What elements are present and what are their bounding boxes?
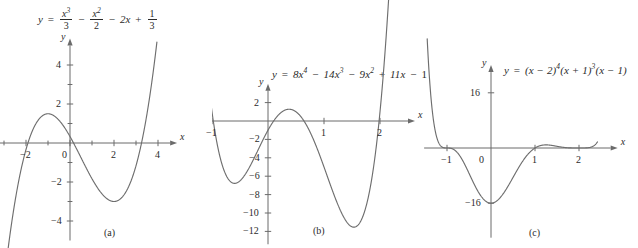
caption-c: (c) (529, 228, 540, 238)
plot-b-ytick-label: −4 (249, 153, 260, 163)
panel-c: y = (x − 2)4(x + 1)3(x − 1) (c) xy−10121… (424, 0, 638, 248)
panel-b: y = 8x4 − 14x3 − 9x2 + 11x − 1 (b) xy−11… (212, 0, 424, 248)
plot-b-x-axis-label: x (418, 110, 422, 120)
plot-b-y-axis-label: y (259, 77, 263, 87)
plot-c-xtick-label: −1 (441, 155, 452, 165)
plot-c-ytick-label: 16 (470, 88, 480, 98)
plot-c-y-axis-label: y (482, 58, 486, 68)
plot-b-xtick-label: −1 (206, 128, 217, 138)
plot-a-xtick-label: 0 (62, 150, 67, 160)
caption-b: (b) (313, 226, 325, 236)
plot-c-xtick-label: 2 (576, 155, 581, 165)
plot-c-x-axis-label: x (621, 137, 625, 147)
polynomial-graphs-figure: y = x3 3 − x2 2 − 2x + 1 3 (a) xy−4−2 (0, 0, 638, 248)
caption-a: (a) (104, 228, 115, 238)
plot-a-ytick-label: −4 (51, 216, 62, 226)
plot-c-xtick-label: 0 (479, 155, 484, 165)
plot-a-x-axis-label: x (180, 132, 184, 142)
plot-b-ytick-label: −10 (243, 208, 259, 218)
plot-a-ytick-label: −2 (51, 177, 62, 187)
plot-a-y-axis-label: y (61, 32, 65, 42)
plot-a-xtick-label: 4 (155, 150, 160, 160)
plot-b-ytick-label: −6 (249, 171, 260, 181)
plot-a-ytick-label: 2 (56, 99, 61, 109)
plot-a (0, 0, 212, 248)
plot-a-xtick-label: −2 (20, 150, 31, 160)
plot-b-ytick-label: −12 (243, 226, 259, 236)
plot-a-ytick-label: 4 (56, 60, 61, 70)
plot-b-xtick-label: 1 (321, 128, 326, 138)
plot-c-ytick-label: −16 (465, 198, 481, 208)
plot-c (424, 0, 638, 248)
plot-a-xtick-label: 2 (111, 150, 116, 160)
plot-b-ytick-label: −2 (249, 134, 260, 144)
plot-b-ytick-label: −8 (249, 190, 260, 200)
panel-a: y = x3 3 − x2 2 − 2x + 1 3 (a) xy−4−2 (0, 0, 212, 248)
plot-c-xtick-label: 1 (532, 155, 537, 165)
plot-b-xtick-label: 2 (377, 128, 382, 138)
plot-b-ytick-label: 2 (254, 98, 259, 108)
